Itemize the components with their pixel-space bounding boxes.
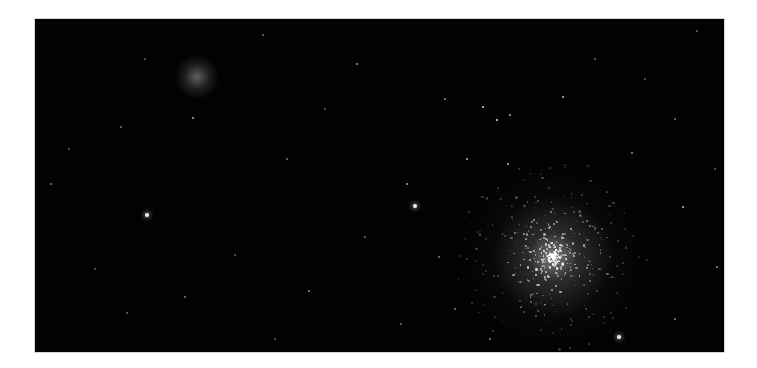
cluster-star (588, 343, 590, 345)
cluster-star (571, 193, 573, 195)
cluster-star (520, 187, 521, 188)
cluster-star (549, 294, 550, 295)
cluster-star (548, 187, 550, 189)
faint-cluster (175, 55, 219, 99)
cluster-star (612, 317, 614, 319)
cluster-star (527, 201, 529, 203)
cluster-star (534, 258, 535, 259)
cluster-star (598, 205, 599, 206)
cluster-star (594, 227, 596, 229)
cluster-star (587, 165, 589, 167)
cluster-star (479, 233, 481, 235)
cluster-star (579, 275, 580, 276)
cluster-star (624, 269, 625, 270)
cluster-star (515, 267, 516, 268)
cluster-star (551, 289, 553, 291)
cluster-star (537, 194, 538, 195)
field-star (364, 236, 366, 238)
cluster-star (492, 330, 494, 332)
cluster-star (465, 216, 466, 217)
cluster-star (546, 248, 548, 250)
cluster-star (475, 290, 477, 292)
cluster-star (574, 233, 575, 234)
cluster-star (515, 196, 517, 198)
cluster-star (572, 230, 573, 231)
cluster-star (535, 274, 536, 275)
cluster-star (551, 229, 553, 231)
cluster-star (556, 254, 558, 256)
cluster-star (609, 215, 610, 216)
cluster-star (539, 175, 540, 176)
cluster-star (482, 264, 484, 266)
cluster-star (536, 293, 538, 295)
cluster-star (546, 321, 547, 322)
cluster-star (572, 207, 573, 208)
cluster-star (574, 181, 575, 182)
cluster-star (613, 277, 614, 278)
cluster-star (551, 201, 552, 202)
cluster-star (492, 224, 494, 226)
cluster-star (604, 322, 605, 323)
cluster-star (612, 225, 613, 226)
cluster-star (561, 237, 563, 239)
cluster-star (585, 247, 587, 249)
cluster-star (544, 268, 545, 269)
cluster-star (509, 250, 510, 251)
cluster-star (585, 308, 587, 310)
cluster-star (537, 241, 538, 242)
field-star (444, 98, 446, 100)
cluster-star (575, 285, 576, 286)
cluster-star (555, 187, 556, 188)
cluster-star (544, 262, 545, 263)
cluster-star (606, 237, 608, 239)
cluster-star (570, 263, 571, 264)
cluster-star (481, 196, 483, 198)
cluster-star (523, 233, 525, 235)
cluster-star (547, 255, 549, 257)
field-star (308, 290, 310, 292)
cluster-star (554, 213, 555, 214)
cluster-star (533, 219, 534, 220)
cluster-star (519, 281, 521, 283)
cluster-star (618, 234, 619, 235)
cluster-star (583, 244, 585, 246)
cluster-star (600, 237, 601, 238)
cluster-star (554, 236, 555, 237)
cluster-star (471, 302, 473, 304)
field-star (714, 168, 716, 170)
cluster-star (522, 176, 523, 177)
cluster-star (529, 259, 531, 261)
cluster-star (593, 313, 594, 314)
cluster-star (531, 174, 533, 176)
cluster-star (481, 201, 482, 202)
cluster-star (589, 275, 590, 276)
cluster-star (523, 311, 525, 313)
cluster-star (473, 212, 474, 213)
cluster-star (583, 284, 585, 286)
cluster-star (559, 291, 561, 293)
cluster-star (586, 220, 588, 222)
cluster-star (541, 238, 542, 239)
field-star (594, 58, 596, 60)
cluster-star (543, 233, 545, 235)
field-star (94, 268, 96, 270)
cluster-star (555, 285, 557, 287)
cluster-star (579, 253, 580, 254)
field-star (234, 254, 236, 256)
cluster-star (507, 262, 508, 263)
cluster-star (492, 257, 493, 258)
cluster-star (511, 216, 513, 218)
cluster-star (589, 225, 591, 227)
cluster-star (535, 202, 537, 204)
cluster-star (570, 249, 572, 251)
cluster-star (532, 234, 534, 236)
cluster-star (574, 252, 575, 253)
cluster-star (486, 197, 488, 199)
cluster-star (550, 260, 552, 262)
cluster-star (588, 316, 590, 318)
cluster-star (625, 307, 627, 309)
cluster-star (600, 249, 602, 251)
cluster-star (544, 276, 546, 278)
cluster-star (519, 300, 521, 302)
cluster-star (539, 239, 541, 241)
